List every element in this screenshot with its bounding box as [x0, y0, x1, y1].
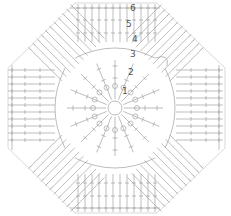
round-label-3: 3 [130, 50, 136, 59]
round-label-1: 1 [122, 87, 128, 96]
round-label-5: 5 [126, 20, 132, 29]
round-label-2: 2 [128, 68, 134, 77]
crochet-chart [0, 0, 231, 216]
round-label-6: 6 [130, 4, 136, 13]
round-label-4: 4 [132, 35, 138, 44]
